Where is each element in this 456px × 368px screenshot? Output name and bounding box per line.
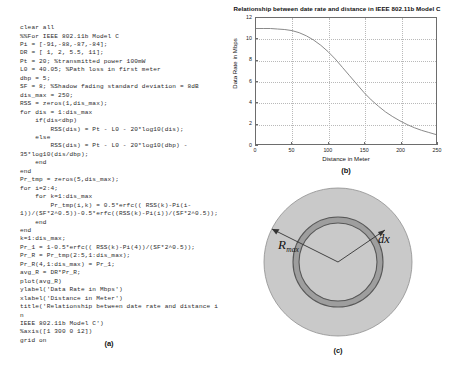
y-tick-label: 0 xyxy=(238,142,252,148)
x-tick-label: 250 xyxy=(427,147,447,153)
x-tick-label: 200 xyxy=(391,147,411,153)
y-tick-label: 12 xyxy=(238,14,252,20)
y-tick-mark xyxy=(255,145,258,146)
y-tick-label: 10 xyxy=(238,35,252,41)
panel-a-caption: (a) xyxy=(0,339,218,348)
y-tick-mark xyxy=(255,60,258,61)
y-tick-mark xyxy=(255,17,258,18)
y-tick-mark xyxy=(255,102,258,103)
x-tick-mark xyxy=(328,142,329,145)
x-tick-mark xyxy=(364,142,365,145)
data-curve xyxy=(256,18,436,144)
diagram-panel: Rmax dx (c) xyxy=(218,180,456,368)
chart-panel: Relationship between date rate and dista… xyxy=(218,0,456,180)
code-panel: clear all %%For IEEE 802.11b Model C Pi … xyxy=(0,0,218,368)
plot-area xyxy=(255,17,437,145)
y-tick-mark xyxy=(255,81,258,82)
matlab-code-listing: clear all %%For IEEE 802.11b Model C Pi … xyxy=(20,24,218,345)
x-tick-mark xyxy=(401,142,402,145)
panel-b-caption: (b) xyxy=(255,166,437,175)
panel-c-caption: (c) xyxy=(240,346,436,355)
x-tick-label: 50 xyxy=(281,147,301,153)
y-tick-label: 8 xyxy=(238,56,252,62)
x-tick-mark xyxy=(291,142,292,145)
x-axis-label: Distance in Meter xyxy=(255,155,437,162)
x-tick-label: 0 xyxy=(245,147,265,153)
dx-label: dx xyxy=(378,232,390,247)
y-tick-mark xyxy=(255,124,258,125)
x-tick-mark xyxy=(437,142,438,145)
r-max-label: Rmax xyxy=(278,237,298,253)
chart-title: Relationship between date rate and dista… xyxy=(218,5,456,12)
annulus-ring-icon xyxy=(240,182,436,346)
x-tick-label: 100 xyxy=(318,147,338,153)
y-tick-label: 6 xyxy=(238,78,252,84)
y-axis-label: Data Rate in Mbps xyxy=(231,9,238,119)
y-tick-label: 2 xyxy=(238,120,252,126)
y-tick-mark xyxy=(255,38,258,39)
x-tick-label: 150 xyxy=(354,147,374,153)
y-tick-label: 4 xyxy=(238,99,252,105)
